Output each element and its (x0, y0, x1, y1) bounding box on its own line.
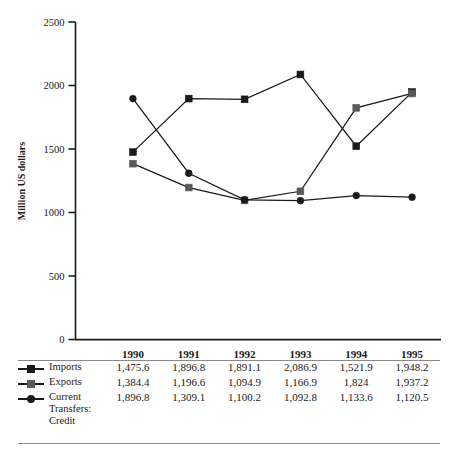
y-tick-label: 1500 (44, 144, 65, 155)
legend-square-marker-icon (18, 362, 44, 376)
data-point (353, 143, 360, 150)
data-point (241, 196, 248, 203)
table-cell: 1,309.1 (161, 391, 217, 428)
series-exports (130, 90, 416, 204)
table-cell: 1,120.5 (384, 391, 440, 428)
column-header-1993: 1993 (272, 348, 328, 360)
data-point (297, 71, 304, 78)
table-cell: 1,094.9 (217, 376, 273, 391)
y-axis-title: Million US dollars (16, 142, 27, 220)
data-point (353, 104, 360, 111)
table-cell: 1,384.4 (105, 376, 161, 391)
table-cell: 2,086.9 (272, 361, 328, 377)
table-cell: 1,896.8 (161, 361, 217, 377)
y-tick-label: 0 (59, 334, 64, 345)
table-row: Exports1,384.41,196.61,094.91,166.91,824… (18, 376, 440, 391)
data-point (409, 194, 416, 201)
values-table: 1990 1991 1992 1993 1994 1995 Imports1,4… (18, 348, 440, 428)
legend-label: Exports (49, 376, 82, 388)
data-point (130, 160, 137, 167)
column-header-1992: 1992 (217, 348, 273, 360)
column-header-1991: 1991 (161, 348, 217, 360)
data-point (185, 170, 192, 177)
data-point (130, 149, 137, 156)
table-cell: 1,133.6 (328, 391, 384, 428)
table-bottom-divider (18, 443, 440, 444)
y-axis-ticks (69, 22, 76, 340)
table-body: Imports1,475.61,896.81,891.12,086.91,521… (18, 361, 440, 428)
table-cell: 1,092.8 (272, 391, 328, 428)
legend-square-marker-icon (18, 377, 44, 391)
table-cell: 1,100.2 (217, 391, 273, 428)
table-cell: 1,475.6 (105, 361, 161, 377)
y-tick-label: 1000 (44, 207, 65, 218)
legend-label: Imports (49, 361, 82, 373)
legend-label: Current Transfers: Credit (49, 391, 105, 428)
table-cell: 1,896.8 (105, 391, 161, 428)
y-tick-label: 2000 (44, 80, 65, 91)
table-cell: 1,824 (328, 376, 384, 391)
table-header-row: 1990 1991 1992 1993 1994 1995 (18, 348, 440, 360)
chart-page: 05001000150020002500 Million US dollars … (0, 0, 458, 453)
legend-cell: Imports (18, 361, 105, 377)
data-point (185, 184, 192, 191)
data-point (297, 188, 304, 195)
table-row: Current Transfers: Credit1,896.81,309.11… (18, 391, 440, 428)
y-axis-tick-labels: 05001000150020002500 (44, 17, 65, 346)
table-cell: 1,196.6 (161, 376, 217, 391)
chart-svg: 05001000150020002500 Million US dollars (0, 0, 458, 348)
series-line (133, 99, 412, 201)
data-point (353, 192, 360, 199)
table-cell: 1,891.1 (217, 361, 273, 377)
y-tick-label: 2500 (44, 17, 65, 28)
data-table: 1990 1991 1992 1993 1994 1995 Imports1,4… (18, 348, 440, 428)
y-tick-label: 500 (49, 271, 65, 282)
column-header-1990: 1990 (105, 348, 161, 360)
legend-cell: Exports (18, 376, 105, 391)
legend-circle-marker-icon (18, 392, 44, 406)
column-header-1994: 1994 (328, 348, 384, 360)
table-cell: 1,521.9 (328, 361, 384, 377)
data-point (297, 197, 304, 204)
column-header-1995: 1995 (384, 348, 440, 360)
data-point (185, 95, 192, 102)
series-imports (130, 71, 416, 155)
series-line (133, 93, 412, 200)
table-cell: 1,937.2 (384, 376, 440, 391)
legend-cell: Current Transfers: Credit (18, 391, 105, 428)
table-row: Imports1,475.61,896.81,891.12,086.91,521… (18, 361, 440, 377)
table-cell: 1,166.9 (272, 376, 328, 391)
series-line (133, 74, 412, 152)
table-cell: 1,948.2 (384, 361, 440, 377)
table-corner (18, 348, 105, 360)
data-point (241, 96, 248, 103)
series-layer (130, 71, 416, 204)
series-current-transfers-credit (130, 95, 416, 204)
data-point (409, 90, 416, 97)
data-point (130, 95, 137, 102)
line-chart: 05001000150020002500 Million US dollars (0, 0, 458, 348)
